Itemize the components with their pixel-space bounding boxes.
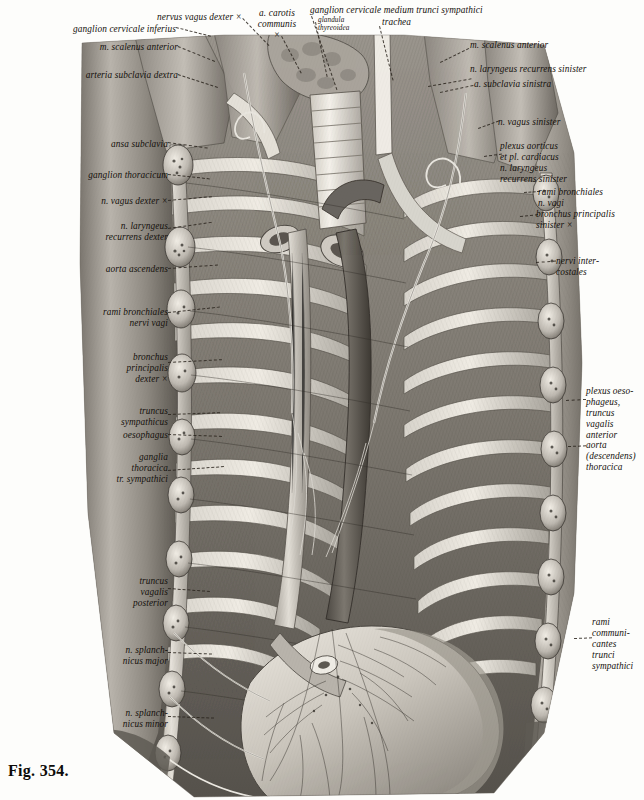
label-n-laryngeus-recurrens-sinister-top: n. laryngeus recurrens sinister (470, 64, 642, 75)
label-n-vagus-sinister: n. vagus sinister (498, 117, 644, 128)
label-ganglia-thoracica: ganglia thoracica tr. sympathici (2, 452, 168, 485)
label-rami-communicantes: rami communi- cantes trunci sympathici (592, 617, 644, 672)
label-m-scalenus-anterior-right: m. scalenus anterior (470, 40, 630, 51)
label-a-subclavia-sinistra: a. subclavia sinistra (474, 79, 640, 90)
label-nervi-intercostales: nervi inter- costales (556, 256, 644, 278)
label-m-scalenus-anterior-left: m. scalenus anterior (2, 42, 178, 53)
label-arteria-subclavia-dextra: arteria subclavia dextra (2, 70, 178, 81)
label-aorta-descendens-thoracica: aorta (descendens) thoracica (586, 440, 644, 473)
figure-caption: Fig. 354. (8, 762, 69, 780)
label-n-splanchnicus-minor: n. splanch- nicus minor (2, 708, 168, 730)
label-nervus-vagus-dexter: nervus vagus dexter × (70, 12, 242, 23)
label-plexus-oesophageus: plexus oeso- phageus, truncus vagalis an… (586, 386, 644, 441)
label-truncus-vagalis-posterior: truncus vagalis posterior (2, 576, 168, 609)
label-ansa-subclavia: ansa subclavia (2, 139, 168, 150)
label-rami-bronchiales-nervi-vagi: rami bronchiales nervi vagi (2, 307, 168, 329)
label-n-laryngeus-recurrens-dexter: n. laryngeus recurrens dexter (2, 221, 168, 243)
label-ganglion-thoracicum: ganglion thoracicum (2, 170, 168, 181)
label-n-splanchnicus-major: n. splanch- nicus major (2, 645, 168, 667)
label-ganglion-cervicale-inferius: ganglion cervicale inferius (4, 24, 176, 35)
label-n-vagus-dexter: n. vagus dexter × (2, 196, 168, 207)
label-truncus-sympathicus: truncus sympathicus (2, 406, 168, 428)
label-rami-bronchiales-n-vagi: rami bronchiales n. vagi (538, 187, 644, 209)
label-oesophagus: oesophagus (2, 430, 168, 441)
label-aorta-ascendens: aorta ascendens (2, 264, 168, 275)
label-bronchus-principalis-dexter: bronchus principalis dexter × (2, 352, 168, 385)
label-trachea: trachea (382, 17, 432, 28)
label-bronchus-principalis-sinister: bronchus principalis sinister × (536, 209, 644, 231)
label-glandula-thyreoidea: glandula thyreoidea (318, 16, 372, 32)
label-a-carotis-communis: a. carotis communis × (246, 8, 308, 41)
label-ganglion-cervicale-medium: ganglion cervicale medium trunci sympath… (310, 5, 590, 16)
label-plexus-aorticus-cardiacus: plexus aorticus et pl. cardiacus n. lary… (500, 141, 644, 185)
anatomical-plate: ganglion cervicale inferiusnervus vagus … (0, 0, 644, 800)
